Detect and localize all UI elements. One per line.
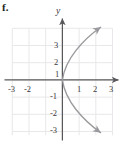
x-tick-label-2: 2 — [93, 85, 97, 94]
x-tick-label-neg2: -2 — [24, 85, 31, 94]
x-tick-label-1: 1 — [77, 85, 81, 94]
y-tick-label-1: 1 — [55, 70, 59, 79]
y-tick-label-3: 3 — [54, 41, 58, 50]
plot-area — [0, 0, 128, 144]
y-tick-label-neg2: -2 — [50, 109, 57, 118]
x-tick-label-3: 3 — [109, 85, 113, 94]
y-tick-label-2: 2 — [54, 58, 58, 67]
y-axis-label: y — [56, 6, 60, 16]
figure-container: f. — [0, 0, 128, 144]
y-tick-label-neg3: -3 — [50, 126, 57, 135]
x-tick-label-neg3: -3 — [8, 85, 15, 94]
curve-upper-branch — [62, 27, 100, 80]
y-tick-label-neg1: -1 — [50, 92, 57, 101]
